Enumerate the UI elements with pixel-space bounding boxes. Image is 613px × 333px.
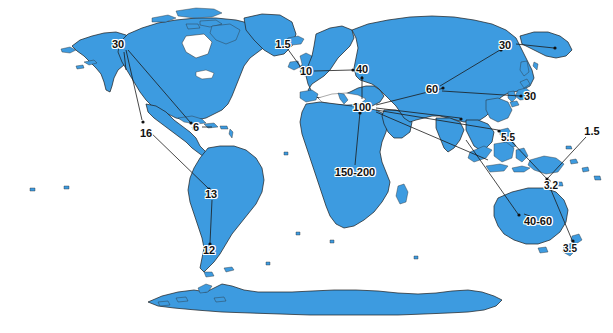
leader-endpoint-australia xyxy=(517,213,520,216)
landmasses xyxy=(30,8,601,315)
land-pacific-island-4 xyxy=(566,146,572,149)
leader-endpoint-mediterranean xyxy=(360,76,363,79)
annotation-label-africa: 150-200 xyxy=(335,167,375,178)
land-lesser-antilles xyxy=(229,129,233,138)
land-arctic-island-1 xyxy=(176,8,222,18)
annotation-label-mediterranean: 100 xyxy=(353,102,371,113)
annotation-label-mexico: 16 xyxy=(140,128,152,139)
land-tierra-del-fuego xyxy=(204,272,214,277)
land-madagascar xyxy=(396,184,408,204)
land-islet-pacific-1 xyxy=(30,188,35,191)
land-pacific-island-2 xyxy=(582,167,589,172)
annotation-label-britain: 10 xyxy=(300,66,312,77)
land-ireland xyxy=(288,61,300,70)
land-japan-south xyxy=(510,101,519,107)
annotation-label-japan: 30 xyxy=(524,91,536,102)
leader-endpoint-asia-1 xyxy=(441,86,444,89)
annotation-label-new-guinea: 3.2 xyxy=(544,181,558,191)
land-islet-pacific-2 xyxy=(64,186,69,189)
land-south-america xyxy=(188,146,264,272)
land-islet-atlantic-2 xyxy=(296,232,300,235)
leader-endpoint-europe xyxy=(351,68,354,71)
annotation-label-australia: 40-60 xyxy=(524,216,552,227)
land-aleutians-3 xyxy=(76,65,84,69)
land-arctic-island-4 xyxy=(186,24,200,29)
land-korea xyxy=(508,91,516,102)
annotation-label-kamchatka: 30 xyxy=(499,40,511,51)
annotation-label-brazil: 13 xyxy=(205,189,217,200)
land-antarctic-islet-2 xyxy=(214,297,226,302)
world-map-graphic xyxy=(0,0,613,333)
land-kuriles xyxy=(533,62,538,70)
land-north-america xyxy=(118,18,268,120)
land-islet-pacific-3 xyxy=(330,240,334,243)
land-china-coast xyxy=(486,98,512,122)
annotation-label-alaska: 30 xyxy=(112,39,124,50)
annotation-label-patagonia: 12 xyxy=(203,245,215,256)
land-antarctic-islet-1 xyxy=(176,297,188,302)
land-islet-atlantic-1 xyxy=(284,152,288,155)
annotation-label-iceland: 1.5 xyxy=(275,39,290,50)
leader-endpoint-asia-2 xyxy=(459,117,462,120)
annotation-label-philippines: 5.5 xyxy=(501,133,515,143)
land-tasmania xyxy=(538,247,548,253)
annotation-label-new-zealand: 3.5 xyxy=(563,244,577,254)
land-lesser-sunda xyxy=(512,166,530,172)
leader-endpoint-west-coast xyxy=(141,120,144,123)
land-pacific-island-3 xyxy=(594,176,601,180)
leader-endpoint-japan xyxy=(519,94,522,97)
land-islet-pacific-5 xyxy=(266,262,270,265)
land-pacific-island-1 xyxy=(570,159,578,164)
leader-endpoint-kamchatka-east xyxy=(553,46,556,49)
land-puerto-rico xyxy=(220,126,228,129)
annotation-label-pacific: 1.5 xyxy=(584,126,599,137)
annotation-label-caribbean: 6 xyxy=(193,122,199,133)
land-antarctic-islet-3 xyxy=(158,301,170,306)
land-falklands xyxy=(224,267,234,272)
land-sulawesi xyxy=(516,148,528,162)
land-india xyxy=(436,118,464,152)
land-java xyxy=(486,164,508,172)
world-map-figure: 30 16 6 13 12 1.5 10 40 100 150-200 60 3… xyxy=(0,0,613,333)
annotation-label-central-asia: 60 xyxy=(426,84,438,95)
land-iberia xyxy=(300,90,318,102)
land-islet-pacific-4 xyxy=(414,256,418,259)
annotation-label-europe: 40 xyxy=(356,64,368,75)
